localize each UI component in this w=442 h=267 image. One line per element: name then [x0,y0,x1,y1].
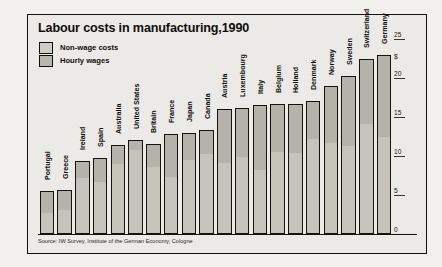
segment-hourly-wages [254,170,267,233]
bar-slot: France [164,31,179,234]
y-tick-mark [394,78,405,79]
bar-canada[interactable] [199,130,214,234]
y-tick-mark [394,156,405,157]
bar-slot: Italy [253,31,268,234]
bar-label-britain: Britain [151,111,159,133]
bar-slot: Austria [217,31,232,234]
bar-slot: Japan [182,31,197,234]
bar-label-japan: Japan [186,101,194,122]
bar-norway[interactable] [324,86,339,234]
bar-greece[interactable] [57,190,72,234]
bar-slot: Sweden [341,31,356,234]
y-tick-mark [394,195,405,196]
bar-label-luxembourg: Luxembourg [240,54,248,97]
bar-group: PortugalGreeceIrelandSpainAustraliaUnite… [38,31,393,234]
segment-hourly-wages [147,167,160,233]
bar-slot: Spain [93,31,108,234]
y-tick-mark [394,39,405,40]
bar-label-holland: Holland [293,67,301,93]
axis-baseline [38,234,417,235]
bar-slot: Greece [57,31,72,234]
bar-label-norway: Norway [328,49,336,75]
bar-label-germany: Germany [382,13,390,44]
segment-non-wage-costs [165,135,178,179]
bar-ireland[interactable] [75,161,90,234]
bar-italy[interactable] [253,105,268,234]
bar-japan[interactable] [182,133,197,234]
segment-non-wage-costs [254,106,267,172]
segment-non-wage-costs [41,192,54,215]
bar-slot: Portugal [40,31,55,234]
segment-hourly-wages [271,152,284,233]
y-axis-currency-label: $ [394,53,398,60]
bar-germany[interactable] [377,55,392,234]
segment-non-wage-costs [236,109,249,160]
bar-label-switzerland: Switzerland [364,8,372,47]
bar-slot: United States [128,31,143,234]
bar-label-united-states: United States [133,83,141,128]
segment-non-wage-costs [147,145,160,169]
bar-slot: Canada [199,31,214,234]
segment-non-wage-costs [307,102,320,141]
bar-slot: Germany [377,31,392,234]
segment-non-wage-costs [200,131,213,156]
segment-hourly-wages [289,153,302,233]
bar-slot: Switzerland [359,31,374,234]
segment-hourly-wages [129,150,142,233]
bar-label-greece: Greece [62,155,70,179]
bar-belgium[interactable] [270,104,285,234]
y-tick-label: 5 [394,187,398,194]
segment-hourly-wages [378,137,391,233]
bar-denmark[interactable] [306,101,321,234]
bar-label-australia: Australia [115,104,123,134]
segment-hourly-wages [165,177,178,233]
bar-australia[interactable] [111,145,126,234]
bar-spain[interactable] [93,158,108,234]
y-tick-label: 0 [394,226,398,233]
chart-panel: Labour costs in manufacturing,1990 Non-w… [27,14,427,254]
bar-label-italy: Italy [257,80,265,94]
bar-label-austria: Austria [222,74,230,98]
plot-area: PortugalGreeceIrelandSpainAustraliaUnite… [38,31,417,234]
segment-non-wage-costs [342,77,355,149]
bar-label-portugal: Portugal [44,151,52,180]
y-axis: 2520151050$ [393,31,417,234]
segment-hourly-wages [76,178,89,233]
bar-label-france: France [169,100,177,123]
segment-hourly-wages [94,182,107,233]
segment-hourly-wages [183,160,196,233]
y-tick-mark [394,117,405,118]
bar-slot: Ireland [75,31,90,234]
bar-slot: Australia [111,31,126,234]
segment-hourly-wages [112,164,125,233]
bar-france[interactable] [164,134,179,234]
segment-hourly-wages [325,143,338,233]
bar-label-spain: Spain [98,128,106,147]
segment-non-wage-costs [218,110,231,165]
segment-hourly-wages [360,124,373,233]
bar-austria[interactable] [217,109,232,234]
bar-britain[interactable] [146,144,161,234]
bar-sweden[interactable] [341,76,356,234]
segment-hourly-wages [236,157,249,233]
bar-label-ireland: Ireland [80,126,88,149]
bar-label-belgium: Belgium [275,65,283,93]
bar-slot: Luxembourg [235,31,250,234]
segment-non-wage-costs [183,134,196,163]
segment-hourly-wages [218,163,231,233]
segment-non-wage-costs [325,87,338,146]
segment-non-wage-costs [360,60,373,126]
segment-non-wage-costs [112,146,125,166]
bar-label-sweden: Sweden [346,38,354,65]
bar-luxembourg[interactable] [235,108,250,234]
bar-slot: Denmark [306,31,321,234]
bar-label-canada: Canada [204,94,212,120]
y-tick-label: 25 [394,31,401,38]
segment-non-wage-costs [271,105,284,154]
bar-holland[interactable] [288,104,303,234]
bar-switzerland[interactable] [359,59,374,235]
source-note: Source: IW Survey, Institute of the Germ… [38,238,193,244]
y-tick-label: 15 [394,109,401,116]
bar-united-states[interactable] [128,140,143,234]
bar-portugal[interactable] [40,191,55,234]
